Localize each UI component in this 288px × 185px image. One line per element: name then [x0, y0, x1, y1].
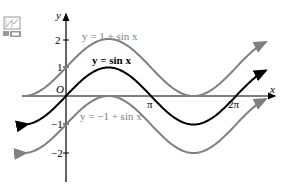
tick-minus-2: −2	[51, 147, 63, 159]
label-sin: y = sin x	[92, 54, 131, 66]
y-axis-label: y	[55, 9, 61, 21]
tick-2pi: 2π	[228, 98, 240, 110]
tick-pi: π	[147, 98, 153, 110]
tick-1: 1	[57, 61, 63, 73]
tick-minus-1: −1	[51, 118, 63, 130]
tick-2: 2	[55, 34, 61, 46]
sine-graph: y x O 2 1 −1 −2 π 2π y = 1 + sin x y = s…	[0, 0, 288, 185]
origin-label: O	[56, 83, 64, 95]
x-axis-label: x	[269, 83, 275, 95]
label-1-plus-sin: y = 1 + sin x	[82, 30, 138, 42]
label-minus-1-plus-sin: y = −1 + sin x	[80, 110, 142, 122]
